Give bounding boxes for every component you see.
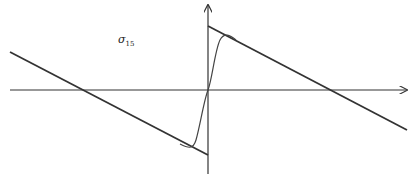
sigma-subscript: 15 <box>126 40 135 48</box>
sigma-label: σ15 <box>118 33 134 48</box>
left-asymptote-line <box>10 52 208 155</box>
sigma-symbol: σ <box>118 33 126 46</box>
diagram-canvas <box>0 0 414 187</box>
right-asymptote-line <box>208 26 407 130</box>
